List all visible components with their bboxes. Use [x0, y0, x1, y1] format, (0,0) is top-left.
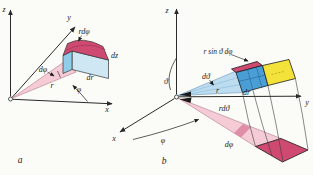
panel-b-rsin-leader — [231, 55, 248, 62]
panel-b-blue-sector-wedge — [178, 71, 243, 96]
panel-b-rdtheta-label: rdϑ — [219, 104, 231, 113]
panel-a-dphi-label: dφ — [39, 65, 48, 74]
panel-a-phi-label: φ — [77, 85, 82, 94]
panel-b-rsin-label: r sin ϑ dφ — [204, 47, 233, 56]
guide-line-4 — [296, 79, 309, 150]
panel-b: z y x r sin ϑ dφ dϑ ϑ r dr rdϑ dφ φ b — [111, 6, 309, 166]
panel-a-x-label: x — [104, 105, 109, 114]
panel-b-z-label: z — [164, 6, 169, 15]
panel-a-rdphi-label: rdφ — [78, 27, 90, 36]
panel-a-letter: a — [18, 155, 23, 165]
panel-a-z-label: z — [1, 5, 6, 14]
figure-cylindrical-spherical-volume-elements: z y x rdφ dz dr dφ r φ a — [0, 0, 313, 175]
panel-b-dphi-label: dφ — [225, 140, 234, 149]
panel-a-dz-label: dz — [111, 51, 119, 60]
panel-b-origin — [175, 95, 179, 99]
panel-a-y-label: y — [66, 13, 71, 22]
panel-a-dr-label: dr — [86, 73, 94, 82]
panel-a-r-label: r — [50, 81, 54, 90]
panel-b-x-label: x — [111, 134, 116, 143]
panel-a-x-axis — [13, 99, 112, 104]
panel-b-dr-label: dr — [243, 88, 251, 97]
panel-b-theta-arc — [169, 58, 176, 90]
panel-b-phi-label: φ — [161, 136, 166, 145]
panel-a-origin — [9, 97, 13, 101]
panel-a: z y x rdφ dz dr dφ r φ a — [1, 5, 119, 165]
panel-b-y-axis — [179, 96, 301, 97]
panel-b-dtheta-label: dϑ — [202, 72, 211, 81]
panel-b-phi-arc — [133, 120, 199, 140]
panel-b-x-axis — [120, 99, 175, 133]
panel-b-y-label: y — [304, 98, 309, 107]
diagram-canvas: z y x rdφ dz dr dφ r φ a — [0, 0, 313, 175]
panel-b-theta-label: ϑ — [164, 77, 169, 86]
panel-b-letter: b — [162, 156, 167, 166]
